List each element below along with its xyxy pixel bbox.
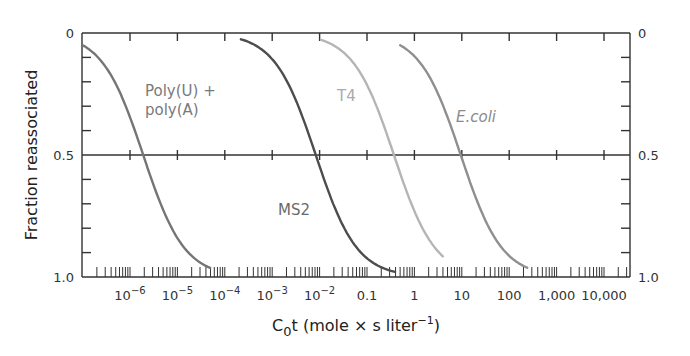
y-tick-label-right: 1.0: [638, 270, 659, 285]
curve-label: T4: [336, 87, 356, 105]
axes-frame: [82, 33, 630, 277]
x-tick-label: 0.1: [357, 288, 378, 303]
x-tick-label: 10−4: [209, 285, 240, 303]
curve-poly-u-poly-a-: [83, 45, 211, 268]
y-tick-label-left: 1.0: [53, 270, 74, 285]
x-tick-label: 10,000: [581, 288, 627, 303]
curve-e-coli: [400, 45, 527, 268]
cot-curve-chart: Poly(U) +poly(A)MS2T4E.coli 000.50.51.01…: [0, 0, 690, 356]
curve-label: E.coli: [456, 108, 497, 126]
y-tick-label-right: 0: [638, 26, 646, 41]
x-tick-label: 10−5: [162, 285, 193, 303]
y-tick-label-left: 0: [66, 26, 74, 41]
x-tick-label: 10: [454, 288, 471, 303]
x-tick-label: 100: [497, 288, 522, 303]
x-tick-label: 10−3: [257, 285, 288, 303]
curve-label: Poly(U) +poly(A): [145, 82, 216, 119]
y-axis-title: Fraction reassociated: [22, 70, 41, 241]
x-tick-label: 1,000: [538, 288, 575, 303]
curve-labels: Poly(U) +poly(A)MS2T4E.coli: [145, 82, 497, 219]
curve-label: MS2: [278, 201, 310, 219]
x-axis-title: C0t (mole × s liter−1): [272, 314, 440, 339]
x-tick-label: 10−6: [114, 285, 145, 303]
y-tick-label-right: 0.5: [638, 148, 659, 163]
curve-t4: [321, 40, 443, 256]
y-tick-label-left: 0.5: [53, 148, 74, 163]
x-tick-label: 10−2: [304, 285, 335, 303]
x-tick-label: 1: [410, 288, 418, 303]
